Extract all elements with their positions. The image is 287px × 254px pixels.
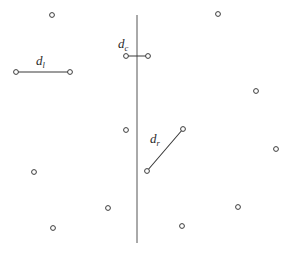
segment-dr <box>147 129 183 171</box>
scatter-point <box>254 89 259 94</box>
scatter-point <box>180 224 185 229</box>
segment-endpoint <box>181 127 186 132</box>
scatter-point <box>274 147 279 152</box>
segment-endpoint <box>124 54 129 59</box>
segment-endpoint <box>14 70 19 75</box>
figure-svg <box>0 0 287 254</box>
scatter-point <box>106 206 111 211</box>
scatter-point <box>216 12 221 17</box>
scatter-point <box>32 170 37 175</box>
scatter-point <box>124 128 129 133</box>
segment-endpoint <box>68 70 73 75</box>
scatter-point <box>50 13 55 18</box>
segment-endpoint <box>146 54 151 59</box>
scatter-point <box>236 205 241 210</box>
figure-canvas: dldcdr <box>0 0 287 254</box>
segment-endpoint <box>145 169 150 174</box>
scatter-point <box>51 226 56 231</box>
scatter-points-group <box>32 12 279 231</box>
segments-group <box>16 56 183 171</box>
